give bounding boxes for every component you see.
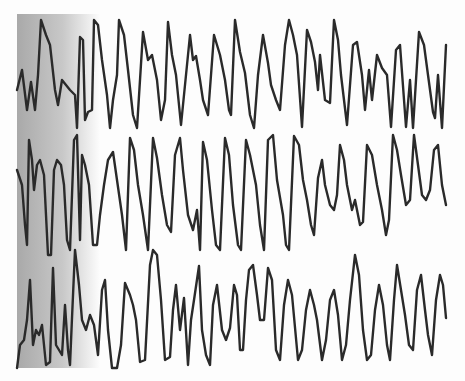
shaded-region bbox=[17, 14, 100, 368]
eeg-figure bbox=[0, 0, 465, 381]
waveform-plot bbox=[0, 0, 465, 381]
